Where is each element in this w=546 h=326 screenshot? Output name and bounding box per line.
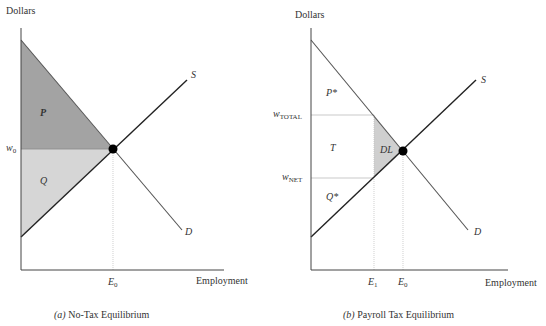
supply-label-a: S [191, 69, 196, 80]
supply-curve [311, 80, 476, 237]
diagram-canvas [0, 0, 546, 326]
supply-label-b: S [481, 74, 486, 85]
region-label-q-star: Q* [326, 191, 338, 202]
caption-a: (a) No-Tax Equilibrium [54, 309, 149, 320]
caption-b: (b) Payroll Tax Equilibrium [343, 309, 454, 320]
x-axis-label-b: Employment [485, 277, 537, 288]
y-axis-label-a: Dollars [6, 5, 35, 16]
wnet-label: wNET [282, 171, 302, 184]
demand-label-a: D [185, 226, 192, 237]
equilibrium-point [399, 147, 408, 156]
e0-label-b: E0 [398, 276, 408, 289]
region-label-q: Q [40, 175, 47, 186]
region-label-t: T [330, 142, 336, 153]
region-label-p: P [40, 107, 46, 118]
e1-label: E1 [368, 276, 378, 289]
wtotal-label: wTOTAL [273, 108, 302, 121]
region-label-p-star: P* [326, 87, 337, 98]
demand-label-b: D [474, 226, 481, 237]
y-axis-label-b: Dollars [295, 9, 324, 20]
region-label-dl: DL [380, 144, 393, 155]
e0-label-a: E0 [108, 276, 118, 289]
panel-a-graph [21, 28, 224, 270]
equilibrium-point [109, 145, 118, 154]
x-axis-label-a: Employment [196, 275, 248, 286]
w0-label: w0 [6, 142, 16, 155]
